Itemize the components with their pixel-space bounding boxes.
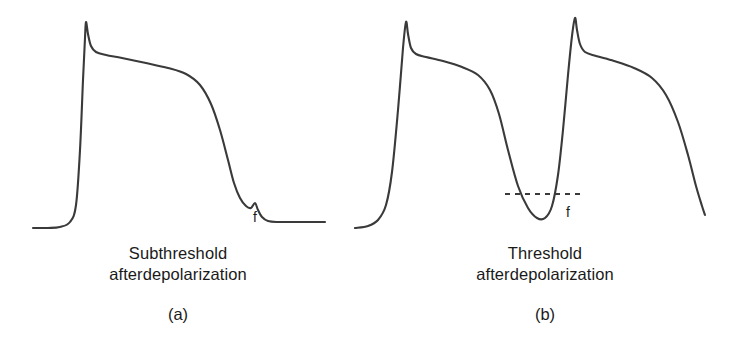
threshold-action-potential-path (355, 18, 705, 228)
caption-panel-a: Subthreshold afterdepolarization (8, 243, 348, 285)
figure-container: f Subthreshold afterdepolarization (a) f… (0, 0, 731, 351)
caption-panel-b-line1: Threshold (385, 243, 705, 264)
caption-panel-b-line2: afterdepolarization (385, 264, 705, 285)
f-label-panel-b: f (566, 204, 570, 220)
caption-panel-a-line2: afterdepolarization (8, 264, 348, 285)
caption-panel-a-line1: Subthreshold (8, 243, 348, 264)
caption-panel-b: Threshold afterdepolarization (385, 243, 705, 285)
subthreshold-action-potential-path (33, 22, 325, 228)
panel-letter-a: (a) (8, 305, 348, 324)
action-potential-traces (0, 0, 731, 351)
panel-letter-b: (b) (385, 305, 705, 324)
f-label-panel-a: f (253, 209, 257, 225)
panel-b-trace-group (355, 18, 705, 228)
panel-a-trace-group (33, 22, 325, 228)
